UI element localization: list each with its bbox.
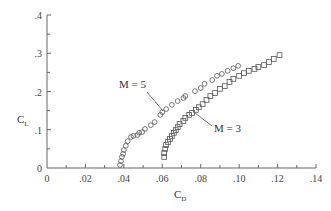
circle-marker [152, 120, 157, 125]
square-marker [213, 91, 218, 96]
m5-leader-line [147, 92, 163, 111]
circle-marker [175, 99, 180, 104]
x-tick-label: .02 [79, 173, 92, 184]
x-tick-label: .06 [156, 173, 169, 184]
square-marker [242, 71, 247, 76]
x-tick-label: .04 [118, 173, 131, 184]
square-marker [175, 125, 180, 130]
square-marker [246, 68, 251, 73]
m5-label: M = 5 [119, 78, 146, 90]
square-marker [271, 57, 276, 62]
data-series [118, 53, 282, 168]
circle-marker [140, 130, 145, 135]
square-marker [218, 86, 223, 91]
circle-marker [210, 78, 215, 83]
circle-marker [123, 143, 128, 148]
square-marker [222, 84, 227, 89]
x-tick-label: .12 [271, 173, 284, 184]
lift-drag-polar-chart: 0.02.04.06.08.10.12.140.1.2.3.4 M = 5 M … [0, 0, 331, 211]
circle-marker [231, 66, 236, 71]
y-tick-label: .1 [35, 125, 43, 136]
circle-marker [198, 86, 203, 91]
circle-marker [225, 68, 230, 73]
circle-marker [143, 127, 148, 132]
axes: 0.02.04.06.08.10.12.140.1.2.3.4 [35, 10, 323, 184]
square-marker [262, 63, 267, 68]
circle-marker [164, 107, 169, 112]
y-tick-label: .4 [35, 10, 43, 21]
square-marker [166, 140, 171, 145]
x-tick-label: 0 [45, 173, 50, 184]
circle-marker [193, 89, 198, 94]
circle-marker [169, 102, 174, 107]
y-axis-title: CL [17, 113, 29, 128]
x-tick-label: .14 [310, 173, 323, 184]
x-axis-title: CD [174, 188, 186, 203]
y-tick-label: 0 [37, 163, 42, 174]
circle-marker [215, 73, 220, 78]
series-m3 [162, 53, 282, 160]
x-tick-label: .10 [233, 173, 246, 184]
square-marker [237, 73, 242, 78]
m3-leader-line [195, 113, 212, 126]
circle-marker [202, 81, 207, 86]
square-marker [267, 60, 272, 65]
circle-marker [125, 139, 130, 144]
y-tick-label: .2 [35, 87, 43, 98]
square-marker [168, 137, 173, 142]
x-tick-label: .08 [194, 173, 207, 184]
circle-marker [219, 72, 224, 77]
m3-label: M = 3 [214, 122, 241, 134]
y-tick-label: .3 [35, 48, 43, 59]
square-marker [169, 133, 174, 138]
square-marker [277, 53, 282, 58]
circle-marker [236, 63, 241, 68]
